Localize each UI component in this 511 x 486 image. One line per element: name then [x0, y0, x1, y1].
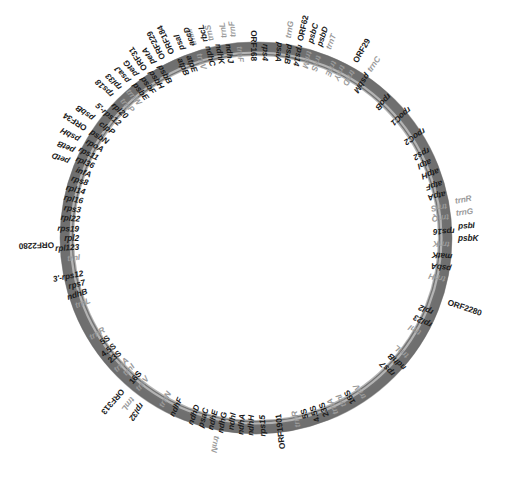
- gene-label: trnQ: [432, 214, 450, 224]
- gene-label: ndhA: [236, 414, 246, 435]
- gene-label: rpl2: [64, 234, 79, 242]
- gene-label: rpl22: [60, 213, 80, 223]
- genome-map-figure: trnMtrnStrnLtrnFtrnGORF62psbCpsbDtrnTORF…: [0, 0, 511, 486]
- gene-label: trnG: [283, 21, 294, 39]
- gene-label: psbK: [458, 234, 478, 242]
- gene-label: ORF2280: [19, 241, 55, 251]
- gene-label: rps19: [57, 223, 79, 232]
- gene-label: rps16: [433, 227, 455, 236]
- gene-label: trnG: [456, 207, 474, 217]
- gene-label: ndhH: [247, 415, 256, 436]
- gene-label: psbI: [457, 220, 474, 229]
- gene-label: trnF: [227, 21, 237, 38]
- gene-label: trnS: [430, 202, 447, 213]
- gene-label: rpl123: [55, 243, 79, 253]
- gene-label: 5S: [299, 407, 310, 419]
- gene-label: rps15: [258, 415, 267, 437]
- gene-label: trnI: [67, 252, 81, 262]
- gene-label: trnF: [235, 46, 245, 62]
- gene-label: ORF168: [250, 30, 259, 61]
- gene-label: trnK: [433, 240, 450, 249]
- gene-label: rps4: [261, 44, 270, 62]
- gene-label: matK: [432, 251, 453, 261]
